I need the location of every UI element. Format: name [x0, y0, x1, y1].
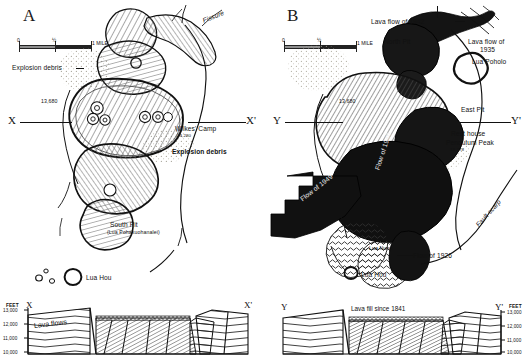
panel-b: B 0 ½ 1 MILE	[265, 0, 530, 364]
leader-explosion-debris-nw	[76, 68, 84, 69]
cross-section-a: FEET 13,000 12,000 11,000 10,000 X X' La…	[0, 300, 265, 364]
leader-flow-of-1926	[397, 255, 413, 256]
annotation-explosion-debris-se: Explosion debris	[172, 148, 227, 155]
xsec-a-tick-12000: 12,000	[3, 322, 18, 327]
annotation-lua-nunu: Lua Nunu	[369, 246, 392, 252]
section-endpoint-x-prime: X'	[246, 114, 256, 126]
leader-lava-flow-1942	[455, 21, 465, 22]
xsec-b-tick-11000: 11,000	[507, 338, 521, 343]
annotation-elevation-13680: 13,680	[339, 99, 355, 105]
annotation-lua-poholo: Lua Poholo	[472, 58, 506, 65]
section-line-y-left	[285, 122, 343, 123]
xsec-b-tick-13000: 13,000	[507, 310, 522, 315]
xsec-a-tick-10000: 10,000	[3, 350, 18, 355]
section-endpoint-y: Y	[273, 114, 281, 126]
section-line-x-left	[20, 122, 72, 123]
annotation-rest-house: Rest house	[451, 130, 485, 137]
panel-a: A 0 ½ 1 MILE	[0, 0, 265, 364]
xsec-b-tick-10000: 10,000	[507, 350, 522, 355]
annotation-lava-flow-1935: Lava flow of	[468, 38, 504, 45]
annotation-east-pit: East Pit	[461, 106, 485, 113]
section-line-y-right	[459, 122, 511, 123]
leader-lava-flow-1942-tick	[437, 6, 438, 18]
xsec-a-tick-13000: 13,000	[3, 308, 18, 313]
section-endpoint-y-prime: Y'	[511, 114, 521, 126]
section-endpoint-x: X	[8, 114, 16, 126]
xsec-b-left-end: Y	[281, 302, 288, 312]
annotation-south-pit: South Pit	[110, 221, 138, 228]
annotation-lua-hou: Lua Hou	[86, 274, 112, 281]
annotation-south-pit: South Pit	[394, 212, 422, 219]
annotation-pendulum-peak-elevation: 13,278	[450, 148, 464, 153]
annotation-wilkes-camp: Wilkes' Camp	[175, 125, 216, 132]
annotation-lua-hou: Lua Hou	[361, 271, 387, 278]
annotation-wilkes-camp-elevation: 13,280	[177, 134, 191, 139]
xsec-a-tick-11000: 11,000	[3, 336, 17, 341]
xsec-b-unit-label: Lava fill since 1841	[351, 305, 405, 312]
annotation-lava-flow-1942: Lava flow of 1942	[371, 18, 424, 25]
xsec-b-tick-12000: 12,000	[507, 324, 522, 329]
annotation-flow-of-1926: Flow of 1926	[413, 252, 452, 259]
annotation-north-pit: North Pit	[384, 38, 411, 45]
annotation-south-pit-native-name: (Lua Pohakuohanalei)	[107, 230, 160, 236]
xsec-b-right-end: Y'	[495, 302, 503, 312]
section-line-x-right	[188, 122, 246, 123]
figure-two-panel-caldera-map: A 0 ½ 1 MILE	[0, 0, 530, 364]
annotation-lava-flow-1935-year: 1935	[480, 46, 495, 53]
xsec-a-right-end: X'	[244, 300, 252, 310]
annotation-explosion-debris-nw: Explosion debris	[12, 64, 62, 71]
xsec-a-left-end: X	[26, 300, 33, 310]
annotation-elevation-13680: 13,680	[41, 99, 57, 105]
annotation-pendulum-peak: Pendulum Peak	[446, 139, 494, 146]
xsec-b-axis-title: FEET	[509, 304, 522, 309]
cross-section-b: FEET 13,000 12,000 11,000 10,000 Y Y' La…	[265, 300, 530, 364]
